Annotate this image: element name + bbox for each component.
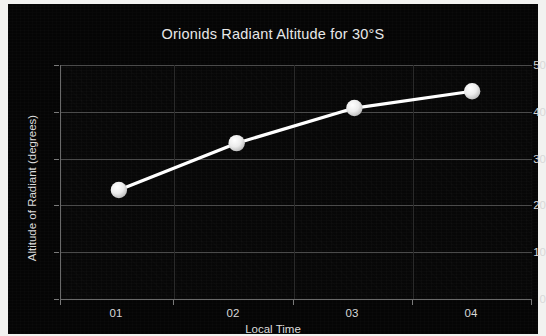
- gridline-y-40: [61, 112, 532, 113]
- gridline-x-2: [294, 65, 295, 299]
- gridline-x-1: [174, 65, 175, 299]
- gridline-y-20: [61, 205, 532, 206]
- chart-screenshot: Orionids Radiant Altitude for 30°S 50 40…: [0, 0, 546, 336]
- plot-area: [60, 65, 532, 300]
- plot-noise-texture: [61, 65, 532, 299]
- gridline-x-3: [413, 65, 414, 299]
- gridline-y-10: [61, 252, 532, 253]
- y-axis-title: Altitude of Radiant (degrees): [26, 88, 38, 288]
- chart-title: Orionids Radiant Altitude for 30°S: [0, 26, 546, 42]
- gridline-y-50: [61, 65, 532, 66]
- x-axis-title: Local Time: [0, 323, 546, 335]
- gridline-y-30: [61, 159, 532, 160]
